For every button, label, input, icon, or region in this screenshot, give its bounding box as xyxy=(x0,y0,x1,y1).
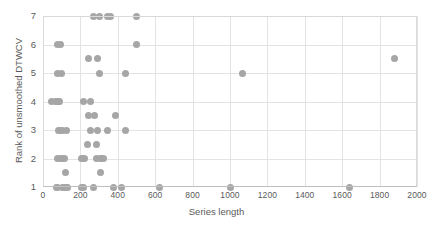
y-tick-label: 1 xyxy=(14,181,36,192)
data-point xyxy=(239,70,246,77)
y-tick-label: 2 xyxy=(14,153,36,164)
data-point xyxy=(107,13,114,20)
scatter-chart: Series length Rank of unsmoothed DTWCV 0… xyxy=(0,0,433,237)
data-point xyxy=(84,141,91,148)
data-point xyxy=(93,141,100,148)
data-point xyxy=(96,70,103,77)
data-point xyxy=(56,98,63,105)
data-point xyxy=(85,55,92,62)
data-point xyxy=(133,41,140,48)
y-tick-label: 7 xyxy=(14,10,36,21)
data-point xyxy=(63,127,70,134)
x-tick-label: 600 xyxy=(135,190,175,200)
data-point xyxy=(97,169,104,176)
y-tick-label: 5 xyxy=(14,67,36,78)
y-tick-label: 6 xyxy=(14,39,36,50)
data-point xyxy=(62,169,69,176)
x-axis-title: Series length xyxy=(0,206,433,217)
data-point xyxy=(391,55,398,62)
data-point xyxy=(122,70,129,77)
data-point xyxy=(91,112,98,119)
data-point xyxy=(87,127,94,134)
gridline-horizontal xyxy=(43,45,417,46)
data-point xyxy=(81,155,88,162)
data-point xyxy=(94,55,101,62)
data-point xyxy=(94,127,101,134)
data-point xyxy=(122,127,129,134)
plot-area xyxy=(43,16,417,187)
gridline-vertical xyxy=(417,16,418,187)
gridline-horizontal xyxy=(43,102,417,103)
x-tick-label: 400 xyxy=(98,190,138,200)
data-point xyxy=(61,155,68,162)
data-point xyxy=(58,70,65,77)
x-tick-label: 1000 xyxy=(210,190,250,200)
data-point xyxy=(96,13,103,20)
x-tick-label: 1600 xyxy=(322,190,362,200)
data-point xyxy=(133,13,140,20)
x-tick-label: 2000 xyxy=(397,190,433,200)
data-point xyxy=(57,41,64,48)
x-tick-label: 1200 xyxy=(247,190,287,200)
x-tick-label: 800 xyxy=(173,190,213,200)
x-tick-label: 1800 xyxy=(360,190,400,200)
y-tick-label: 3 xyxy=(14,124,36,135)
x-tick-label: 1400 xyxy=(285,190,325,200)
data-point xyxy=(104,127,111,134)
x-tick-label: 200 xyxy=(60,190,100,200)
data-point xyxy=(100,155,107,162)
data-point xyxy=(80,98,87,105)
y-tick-label: 4 xyxy=(14,96,36,107)
data-point xyxy=(87,98,94,105)
